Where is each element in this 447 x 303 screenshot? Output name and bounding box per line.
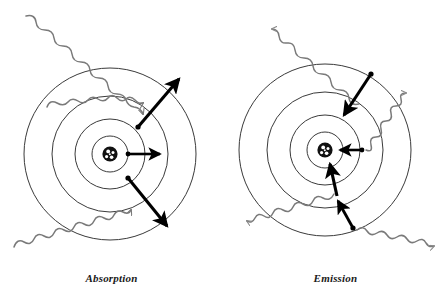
nucleon-speck	[325, 151, 329, 155]
atom-photon-diagram	[0, 0, 447, 303]
electron-lower	[350, 225, 355, 230]
caption-emission: Emission	[224, 272, 447, 284]
electron-lower	[125, 175, 130, 180]
nucleus-absorption	[102, 146, 117, 161]
electron-core	[360, 148, 365, 153]
nucleon-speck	[105, 155, 108, 158]
nucleon-speck	[321, 146, 325, 150]
electron-upper	[368, 71, 373, 76]
electron-core	[126, 152, 131, 157]
nucleus-emission	[317, 142, 332, 157]
caption-absorption: Absorption	[0, 272, 223, 284]
figure-background	[0, 0, 447, 303]
nucleon-speck	[109, 153, 111, 155]
nucleon-speck	[112, 151, 115, 154]
electron-upper	[135, 124, 140, 129]
nucleon-speck	[320, 151, 323, 154]
nucleon-speck	[110, 155, 114, 159]
nucleon-speck	[106, 150, 110, 154]
nucleon-speck	[327, 147, 330, 150]
nucleon-speck	[324, 149, 326, 151]
